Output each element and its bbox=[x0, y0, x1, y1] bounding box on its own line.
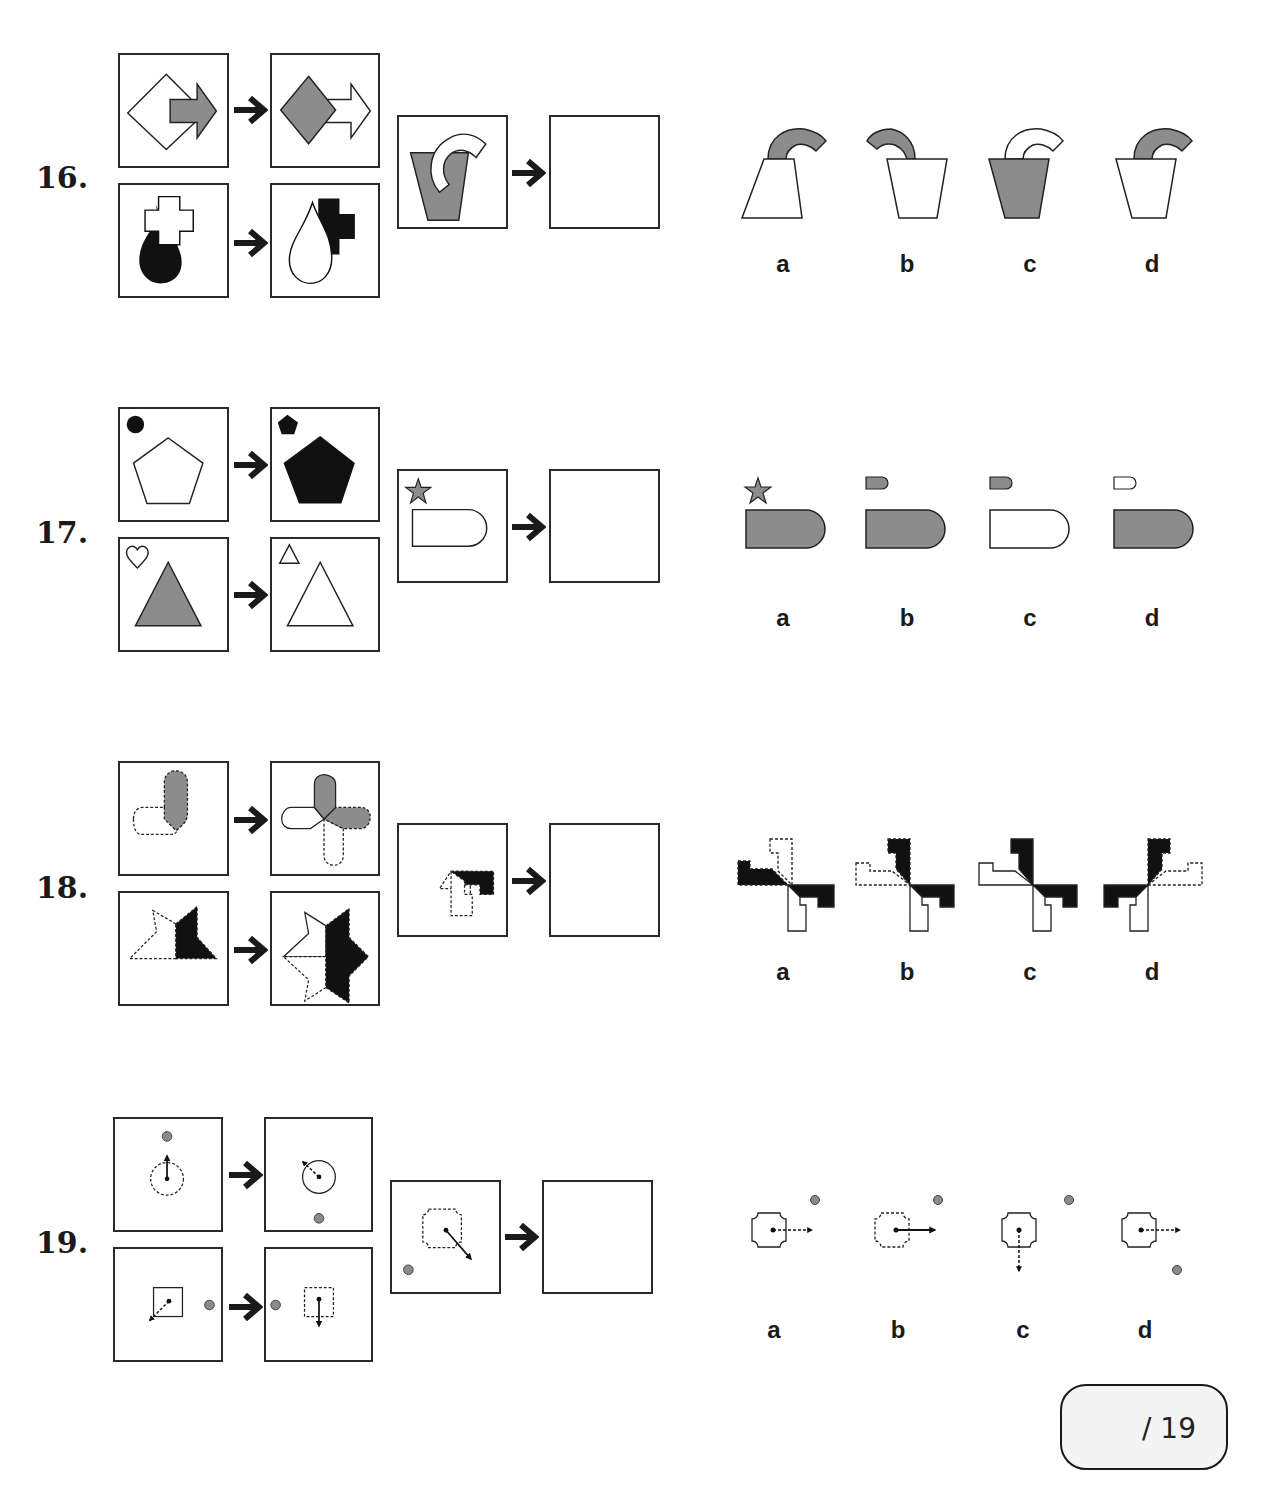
score-total: / 19 bbox=[1142, 1412, 1196, 1445]
q17-example2-before bbox=[118, 537, 229, 652]
q17-option-label-d: d bbox=[1132, 604, 1172, 632]
q16-query-box bbox=[397, 115, 508, 229]
q17-option-d[interactable] bbox=[1106, 470, 1216, 580]
q17-answer-box[interactable] bbox=[549, 469, 660, 583]
question-number-16: 16. bbox=[36, 160, 88, 195]
q17-option-c[interactable] bbox=[982, 470, 1092, 580]
q19-example1-after bbox=[264, 1117, 373, 1232]
q17-option-a[interactable] bbox=[738, 470, 848, 580]
q16-example2-after bbox=[270, 183, 380, 298]
q18-example1-before bbox=[118, 761, 229, 876]
q16-example1-arrow-icon bbox=[232, 95, 268, 125]
q18-option-label-c: c bbox=[1010, 958, 1050, 986]
q17-option-label-c: c bbox=[1010, 604, 1050, 632]
q18-option-c[interactable] bbox=[973, 825, 1083, 935]
q16-option-b[interactable] bbox=[855, 115, 965, 225]
q17-example1-before bbox=[118, 407, 229, 522]
q18-option-label-b: b bbox=[887, 958, 927, 986]
q18-option-b[interactable] bbox=[850, 825, 960, 935]
q16-answer-box[interactable] bbox=[549, 115, 660, 229]
q17-option-label-b: b bbox=[887, 604, 927, 632]
q16-option-label-a: a bbox=[763, 250, 803, 278]
q17-example2-arrow-icon bbox=[232, 580, 268, 610]
q18-example2-after bbox=[270, 891, 380, 1006]
q19-query-arrow-icon bbox=[503, 1222, 539, 1252]
q18-example1-arrow-icon bbox=[232, 805, 268, 835]
question-number-18: 18. bbox=[36, 870, 88, 905]
q16-option-a[interactable] bbox=[730, 115, 840, 225]
q17-query-arrow-icon bbox=[510, 512, 546, 542]
q19-example2-after bbox=[264, 1247, 373, 1362]
score-box[interactable]: / 19 bbox=[1060, 1384, 1228, 1470]
q18-option-d[interactable] bbox=[1098, 825, 1208, 935]
q19-example2-before bbox=[113, 1247, 223, 1362]
q16-option-label-c: c bbox=[1010, 250, 1050, 278]
q17-option-label-a: a bbox=[763, 604, 803, 632]
q19-option-b[interactable] bbox=[863, 1185, 973, 1295]
q17-query-box bbox=[397, 469, 508, 583]
q18-answer-box[interactable] bbox=[549, 823, 660, 937]
q17-example1-after bbox=[270, 407, 380, 522]
question-number-17: 17. bbox=[36, 515, 88, 550]
q19-example2-arrow-icon bbox=[227, 1292, 263, 1322]
q17-example2-after bbox=[270, 537, 380, 652]
q19-example1-arrow-icon bbox=[227, 1160, 263, 1190]
q19-option-label-c: c bbox=[1003, 1316, 1043, 1344]
q19-option-d[interactable] bbox=[1110, 1185, 1220, 1295]
q18-query-box bbox=[397, 823, 508, 937]
q19-option-c[interactable] bbox=[990, 1185, 1100, 1295]
q16-example2-before bbox=[118, 183, 229, 298]
q18-query-arrow-icon bbox=[510, 866, 546, 896]
q18-option-a[interactable] bbox=[728, 825, 838, 935]
q16-option-d[interactable] bbox=[1100, 115, 1210, 225]
question-number-19: 19. bbox=[36, 1225, 88, 1260]
q19-option-a[interactable] bbox=[740, 1185, 850, 1295]
q18-option-label-d: d bbox=[1132, 958, 1172, 986]
q19-answer-box[interactable] bbox=[542, 1180, 653, 1294]
q18-example1-after bbox=[270, 761, 380, 876]
q17-example1-arrow-icon bbox=[232, 450, 268, 480]
q19-query-box bbox=[390, 1180, 501, 1294]
q16-option-c[interactable] bbox=[975, 115, 1085, 225]
q18-option-label-a: a bbox=[763, 958, 803, 986]
q16-example2-arrow-icon bbox=[232, 228, 268, 258]
q19-option-label-a: a bbox=[754, 1316, 794, 1344]
q19-option-label-d: d bbox=[1125, 1316, 1165, 1344]
q16-query-arrow-icon bbox=[510, 158, 546, 188]
q18-example2-arrow-icon bbox=[232, 935, 268, 965]
q19-option-label-b: b bbox=[878, 1316, 918, 1344]
q16-example1-before bbox=[118, 53, 229, 168]
q16-option-label-d: d bbox=[1132, 250, 1172, 278]
q16-option-label-b: b bbox=[887, 250, 927, 278]
q16-example1-after bbox=[270, 53, 380, 168]
q18-example2-before bbox=[118, 891, 229, 1006]
q19-example1-before bbox=[113, 1117, 223, 1232]
q17-option-b[interactable] bbox=[858, 470, 968, 580]
